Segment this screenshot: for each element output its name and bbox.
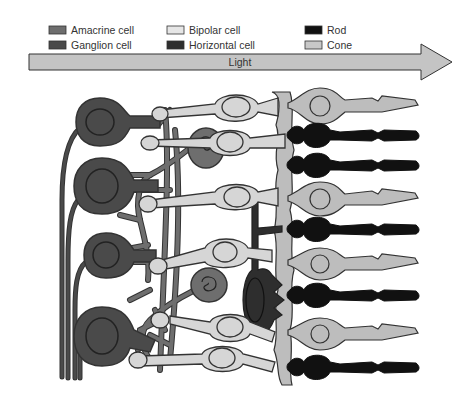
amacrine-cell bbox=[191, 268, 227, 302]
legend-label-ganglion: Ganglion cell bbox=[71, 39, 132, 51]
legend-item-cone: Cone bbox=[305, 39, 352, 51]
legend-label-rod: Rod bbox=[327, 24, 346, 36]
rod bbox=[287, 355, 419, 379]
rod bbox=[287, 123, 419, 147]
rod-swatch bbox=[305, 26, 322, 34]
cone bbox=[288, 88, 418, 124]
legend-item-horizontal: Horizontal cell bbox=[167, 39, 255, 51]
bipolar-terminal bbox=[129, 352, 147, 368]
cone bbox=[288, 248, 418, 280]
arrow-label: Light bbox=[229, 56, 252, 68]
legend-label-cone: Cone bbox=[327, 39, 352, 51]
rod bbox=[287, 217, 419, 241]
photoreceptors bbox=[287, 88, 419, 380]
horizontal-swatch bbox=[167, 41, 184, 49]
legend-item-amacrine: Amacrine cell bbox=[49, 24, 134, 36]
bipolar-terminal bbox=[139, 196, 157, 212]
legend-item-bipolar: Bipolar cell bbox=[167, 24, 240, 36]
rod bbox=[287, 283, 419, 307]
cone bbox=[288, 182, 418, 216]
retina-diagram: Amacrine cell Ganglion cell Bipolar cell… bbox=[0, 0, 468, 405]
legend-label-horizontal: Horizontal cell bbox=[189, 39, 255, 51]
cone-swatch bbox=[305, 41, 322, 49]
bipolar-terminal bbox=[152, 107, 168, 121]
rod bbox=[287, 153, 419, 177]
legend: Amacrine cell Ganglion cell Bipolar cell… bbox=[49, 24, 352, 51]
bipolar-cell bbox=[160, 95, 278, 121]
cone bbox=[288, 318, 418, 350]
legend-label-amacrine: Amacrine cell bbox=[71, 24, 134, 36]
amacrine-swatch bbox=[49, 26, 66, 34]
bipolar-terminal bbox=[149, 258, 167, 274]
bipolar-terminal bbox=[151, 312, 169, 328]
legend-item-ganglion: Ganglion cell bbox=[49, 39, 132, 51]
ganglion-swatch bbox=[49, 41, 66, 49]
bipolar-terminal bbox=[141, 136, 159, 150]
bipolar-swatch bbox=[167, 26, 184, 34]
legend-item-rod: Rod bbox=[305, 24, 346, 36]
bipolar-cell bbox=[150, 131, 285, 156]
legend-label-bipolar: Bipolar cell bbox=[189, 24, 240, 36]
